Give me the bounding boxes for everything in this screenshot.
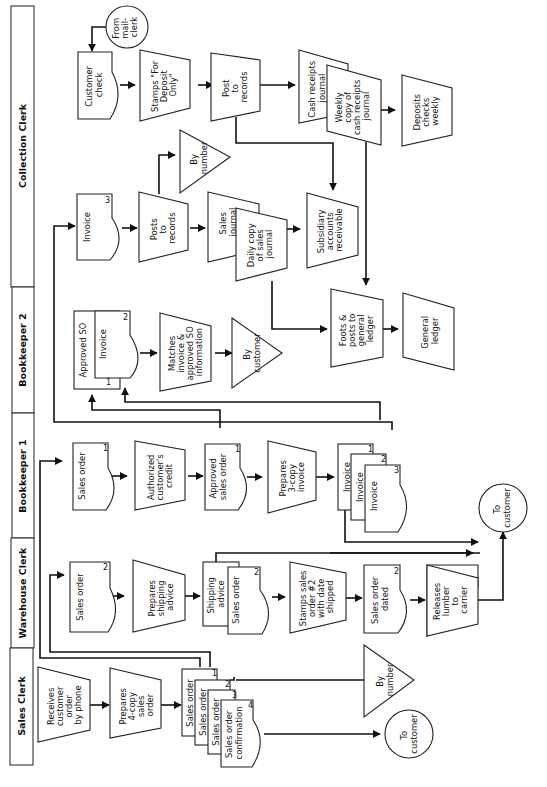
svg-text:1: 1: [212, 669, 217, 678]
node-bk1-authorized: Authorized customer's credit: [135, 441, 185, 510]
node-cc-posts: Posts to records: [139, 192, 188, 262]
svg-text:Invoice: Invoice: [98, 329, 108, 359]
svg-text:Sales order: Sales order: [77, 452, 87, 500]
svg-text:Approved sales order: Approved sales order: [208, 453, 228, 500]
lane-label: Warehouse Clerk: [17, 547, 28, 638]
svg-text:3: 3: [105, 196, 110, 205]
svg-text:Sales order: Sales order: [185, 679, 195, 727]
svg-text:Sales order: Sales order: [198, 688, 208, 736]
svg-text:Approved SO: Approved SO: [78, 322, 88, 377]
node-cc-weekly-copy: Weekly copy of cash receipts journal: [327, 65, 381, 145]
lane-label: Bookkeeper 1: [17, 439, 28, 512]
svg-text:3: 3: [394, 466, 399, 475]
svg-text:Invoice: Invoice: [369, 481, 379, 511]
node-cc-subsidiary: Subsidiary accounts receivable: [307, 193, 358, 268]
svg-text:2: 2: [381, 455, 386, 464]
node-cc-general-ledger: General ledger: [403, 293, 454, 370]
node-wh-stamps: Stamps sales order #2 with date shipped: [290, 562, 346, 633]
node-sales-order-stack: Sales order 1 Sales order 2 Sales order …: [182, 669, 260, 767]
svg-text:Invoice: Invoice: [355, 472, 365, 502]
svg-text:2: 2: [103, 563, 108, 572]
node-bk2-invoice: Invoice 2: [95, 311, 138, 378]
svg-text:General ledger: General ledger: [420, 313, 440, 349]
lane-label: Bookkeeper 2: [17, 313, 28, 386]
node-wh-to-customer: To customer: [479, 484, 527, 532]
node-sales-file-by-number: By number: [364, 645, 414, 717]
node-sales-prepares: Prepares 4-copy sales order: [110, 668, 161, 738]
svg-text:2: 2: [394, 567, 399, 576]
svg-text:1: 1: [368, 445, 373, 454]
svg-text:3: 3: [232, 691, 237, 700]
svg-text:2: 2: [225, 680, 230, 689]
node-cc-invoice: Invoice 3: [77, 194, 119, 260]
node-cc-stamps: Stamps "For Deposit Only": [140, 50, 190, 121]
lane-label: Collection Clerk: [17, 103, 28, 188]
svg-text:Invoice: Invoice: [82, 212, 92, 242]
node-wh-sales-order-2: Sales order 2: [228, 567, 269, 634]
svg-text:1: 1: [235, 445, 240, 454]
svg-text:Subsidiary accounts: Subsidiary accounts receivable: [316, 207, 344, 253]
lane-label: Sales Clerk: [16, 676, 27, 736]
node-bk2-matches: Matches invoice & approved SO informatio…: [160, 313, 211, 391]
svg-text:Sales order: Sales order: [231, 576, 241, 624]
node-cc-daily-copy: Daily copy of sales journal: [236, 208, 287, 281]
node-cc-customer-check: Customer check: [78, 52, 118, 119]
svg-text:4: 4: [248, 701, 253, 710]
node-sales-to-customer: To customer: [385, 710, 433, 758]
node-bk1-prepares-invoice: Prepares 3-copy invoice: [268, 441, 316, 513]
svg-text:Sales order: Sales order: [211, 698, 221, 746]
node-wh-prepares: Prepares shipping advice: [133, 560, 185, 632]
node-wh-sales-order: Sales order 2: [70, 562, 116, 632]
svg-text:Shipping advice: Shipping advice: [206, 574, 226, 613]
node-wh-sales-order-dated: Sales order dated 2: [364, 565, 407, 633]
node-cc-foots: Foots & posts to general ledger: [331, 289, 383, 367]
node-cc-from-mail-clerk: From mail- clerk: [106, 6, 148, 48]
svg-text:2: 2: [123, 313, 128, 322]
svg-text:Deposits checks we: Deposits checks weekly: [412, 91, 440, 130]
node-bk1-approved-so: Approved sales order 1: [205, 444, 247, 510]
svg-text:Receives customer: Receives customer order by phone: [46, 684, 83, 726]
node-cc-post-records: Post to records: [211, 53, 260, 121]
node-sales-receives: Receives customer order by phone: [38, 667, 90, 742]
svg-text:Foots & posts to g: Foots & posts to general ledger: [338, 311, 375, 347]
svg-text:From mail- clerk: From mail- clerk: [111, 15, 139, 39]
svg-text:Sales journal: Sales journal: [218, 208, 238, 238]
node-cc-file-by-number: By number: [180, 130, 230, 193]
node-wh-releases: Releases lumber to carrier: [427, 565, 478, 636]
svg-text:1: 1: [103, 444, 108, 453]
node-bk1-sales-order: Sales order 1: [73, 443, 114, 510]
node-cc-deposits: Deposits checks weekly: [402, 75, 452, 146]
svg-text:Prepares 3-copy in: Prepares 3-copy invoice: [278, 457, 306, 496]
swimlane-header: Collection Clerk Bookkeeper 2 Bookkeeper…: [10, 6, 34, 765]
svg-text:Sales order confirmation: Sales order confirmation: [224, 707, 244, 760]
svg-text:1: 1: [106, 378, 111, 387]
svg-text:Sales order: Sales order: [75, 573, 85, 621]
node-bk1-invoice-stack: Invoice 1 Invoice 2 Invoice 3: [338, 444, 407, 532]
svg-text:Prepares shipping: Prepares shipping advice: [147, 577, 175, 616]
svg-text:2: 2: [254, 568, 259, 577]
flowchart-canvas: Collection Clerk Bookkeeper 2 Bookkeeper…: [0, 0, 547, 787]
